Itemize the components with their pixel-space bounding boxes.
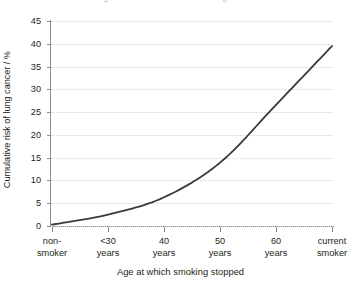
x-tick-label-3: 50years <box>188 236 252 259</box>
y-tick-label-30: 30 <box>11 85 41 94</box>
x-tick-label-line: 40 <box>132 236 196 248</box>
clipped-title-region: Figure: cumulative risk of lung cancer <box>0 0 339 7</box>
x-axis-title-text: Age at which smoking stopped <box>95 266 244 277</box>
y-axis-title-text: Cumulative risk of lung cancer / % <box>3 51 12 188</box>
x-tick-label-line: current <box>300 236 352 248</box>
y-tick-label-40: 40 <box>11 40 41 49</box>
x-tick-mark-2 <box>164 227 165 232</box>
x-tick-label-0: non-smoker <box>20 236 84 259</box>
y-tick-label-35: 35 <box>11 63 41 72</box>
x-tick-label-1: <30years <box>76 236 140 259</box>
y-tick-label-25: 25 <box>11 108 41 117</box>
series-line-lung-cancer-risk <box>52 46 332 225</box>
x-tick-label-2: 40years <box>132 236 196 259</box>
series-line-svg <box>51 21 333 226</box>
x-tick-label-line: non- <box>20 236 84 248</box>
x-tick-mark-5 <box>332 227 333 232</box>
x-tick-label-line: smoker <box>20 248 84 260</box>
y-tick-label-10: 10 <box>11 176 41 185</box>
y-tick-label-20: 20 <box>11 131 41 140</box>
y-tick-label-5: 5 <box>11 199 41 208</box>
x-tick-mark-1 <box>108 227 109 232</box>
x-tick-label-line: 60 <box>244 236 308 248</box>
y-tick-label-45: 45 <box>11 17 41 26</box>
x-tick-mark-0 <box>52 227 53 232</box>
x-tick-label-line: years <box>132 248 196 260</box>
y-tick-label-0: 0 <box>11 222 41 231</box>
x-tick-label-line: years <box>76 248 140 260</box>
x-tick-mark-3 <box>220 227 221 232</box>
y-tick-label-15: 15 <box>11 154 41 163</box>
x-axis-title: Age at which smoking stopped <box>0 266 339 277</box>
x-tick-label-line: <30 <box>76 236 140 248</box>
x-tick-label-line: years <box>188 248 252 260</box>
gridline-y-0 <box>51 226 333 227</box>
x-tick-mark-4 <box>276 227 277 232</box>
clipped-title-text: Figure: cumulative risk of lung cancer <box>95 0 260 2</box>
y-tick-mark-0 <box>47 226 51 227</box>
x-tick-label-4: 60years <box>244 236 308 259</box>
x-tick-label-line: 50 <box>188 236 252 248</box>
plot-area: 051015202530354045 <box>51 21 333 226</box>
x-tick-label-line: smoker <box>300 248 352 260</box>
x-tick-label-5: currentsmoker <box>300 236 352 259</box>
x-tick-label-line: years <box>244 248 308 260</box>
